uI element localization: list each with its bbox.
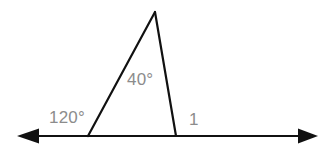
geometry-diagram: 120° 40° 1 bbox=[0, 0, 333, 150]
horizontal-line-group bbox=[17, 129, 318, 144]
left-arrowhead-icon bbox=[17, 129, 39, 144]
right-arrowhead-icon bbox=[298, 129, 318, 144]
triangle-right-leg bbox=[155, 12, 176, 136]
geometry-canvas bbox=[0, 0, 333, 150]
exterior-angle-label: 120° bbox=[49, 109, 85, 126]
unknown-angle-label: 1 bbox=[189, 111, 199, 128]
apex-angle-label: 40° bbox=[127, 71, 153, 88]
